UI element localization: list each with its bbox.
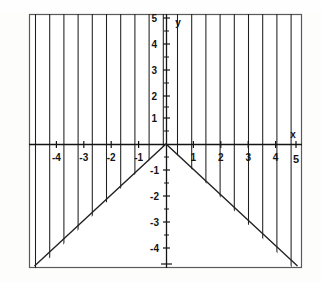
- y-tick-label-5: 5: [151, 13, 157, 24]
- y-tick-label-neg4: -4: [150, 243, 159, 254]
- x-tick-label-4: 4: [273, 152, 279, 163]
- x-tick-label-1: 1: [191, 152, 197, 163]
- y-tick-label-3: 3: [151, 65, 157, 76]
- x-tick-label-5: 5: [293, 153, 299, 165]
- y-tick-label-4: 4: [151, 39, 157, 50]
- x-tick-label-neg2: -2: [107, 152, 116, 163]
- y-tick-label-neg2: -2: [150, 191, 159, 202]
- y-tick-label-2: 2: [151, 91, 157, 102]
- x-tick-label-neg3: -3: [79, 152, 88, 163]
- y-tick-label-1: 1: [151, 113, 157, 124]
- y-tick-label-neg1: -1: [150, 165, 159, 176]
- coordinate-graph: -4 -3 -2 -1 1 2 3 4 5 5 4 3 2 1 -1 -2 -3…: [0, 0, 321, 282]
- figure-root: -4 -3 -2 -1 1 2 3 4 5 5 4 3 2 1 -1 -2 -3…: [0, 0, 321, 282]
- x-tick-label-neg1: -1: [134, 152, 143, 163]
- x-tick-label-2: 2: [218, 152, 224, 163]
- y-tick-label-neg3: -3: [150, 217, 159, 228]
- x-tick-label-3: 3: [245, 152, 251, 163]
- plot-frame: [30, 15, 302, 268]
- x-tick-label-neg4: -4: [52, 152, 61, 163]
- x-axis-name-label: x: [290, 129, 296, 140]
- y-axis-name-label: y: [175, 17, 181, 28]
